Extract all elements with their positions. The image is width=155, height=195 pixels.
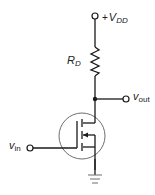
vdd-terminal <box>92 13 98 19</box>
vin-label: vin <box>9 139 21 153</box>
circuit-schematic: +VDD RD vout vin <box>0 0 155 195</box>
rd-label: RD <box>67 54 81 68</box>
vout-terminal <box>123 96 129 102</box>
body-arrow-icon <box>83 133 88 138</box>
resistor-rd <box>91 47 99 76</box>
nmos-transistor <box>77 114 95 170</box>
vout-label: vout <box>133 90 150 104</box>
ground-icon <box>88 159 102 183</box>
vin-terminal <box>27 145 33 151</box>
vdd-label: +VDD <box>102 11 128 25</box>
